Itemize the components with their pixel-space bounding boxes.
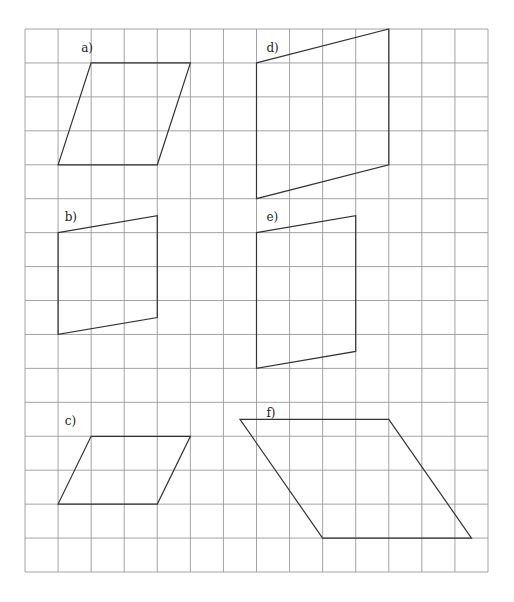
- shapes: [58, 29, 471, 538]
- shape-labels: a)b)c)d)e)f): [65, 41, 279, 428]
- label-e: e): [266, 210, 278, 224]
- shape-b: [58, 216, 157, 335]
- label-f: f): [266, 406, 275, 420]
- grid-diagram: a)b)c)d)e)f): [0, 0, 514, 602]
- label-d: d): [266, 41, 278, 55]
- label-c: c): [65, 414, 76, 428]
- label-b: b): [65, 210, 77, 224]
- shape-e: [257, 216, 356, 369]
- label-a: a): [81, 41, 93, 55]
